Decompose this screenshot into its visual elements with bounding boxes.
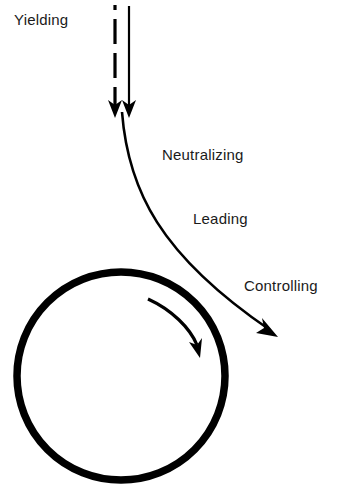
label-controlling: Controlling bbox=[244, 277, 318, 294]
label-leading: Leading bbox=[193, 210, 248, 227]
rotation-arrow bbox=[148, 299, 202, 358]
solid-arrow bbox=[122, 6, 136, 118]
dashed-arrow bbox=[108, 5, 122, 118]
arrowhead-icon bbox=[256, 318, 278, 337]
diagram-canvas bbox=[0, 0, 353, 496]
body-circle bbox=[17, 272, 225, 480]
label-neutralizing: Neutralizing bbox=[162, 146, 244, 163]
label-yielding: Yielding bbox=[14, 11, 68, 28]
